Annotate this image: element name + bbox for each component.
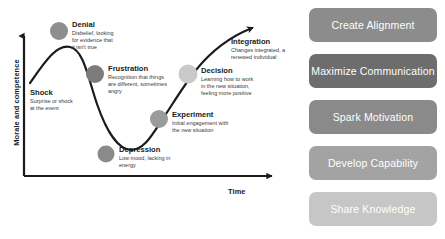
action-spark-motivation[interactable]: Spark Motivation (309, 100, 437, 134)
stage-label-shock: Shock Surprise or shock at the event (30, 88, 74, 112)
stage-title-denial: Denial (72, 20, 114, 29)
marker-experiment (150, 110, 168, 128)
x-axis-title: Time (228, 187, 246, 196)
stage-title-integration: Integration (231, 37, 297, 46)
actions-panel: Create Alignment Maximize Communication … (300, 0, 445, 239)
action-create-alignment[interactable]: Create Alignment (309, 8, 437, 42)
marker-denial (50, 22, 68, 40)
stage-title-experiment: Experiment (172, 110, 230, 119)
curve-graphic (0, 0, 300, 239)
change-curve-infographic: Morale and competence Time Shock Surpris… (0, 0, 445, 239)
action-maximize-communication[interactable]: Maximize Communication (309, 54, 437, 88)
stage-desc-experiment: Initial engagement with the new situatio… (172, 120, 230, 134)
stage-desc-denial: Disbelief, looking for evidence that it … (72, 30, 114, 52)
stage-label-experiment: Experiment Initial engagement with the n… (172, 110, 230, 134)
action-share-knowledge[interactable]: Share Knowledge (309, 192, 437, 226)
y-axis-title: Morale and competence (12, 53, 21, 153)
stage-title-frustration: Frustration (108, 64, 168, 73)
stage-desc-frustration: Recognition that things are different, s… (108, 74, 168, 96)
stage-desc-shock: Surprise or shock at the event (30, 98, 74, 112)
action-create-alignment-label: Create Alignment (332, 19, 415, 31)
stage-label-decision: Decision Learning how to work in the new… (201, 66, 259, 98)
stage-label-integration: Integration Changes integrated, a renewe… (231, 37, 297, 61)
action-maximize-communication-label: Maximize Communication (311, 65, 435, 77)
stage-desc-integration: Changes integrated, a renewed individual (231, 47, 297, 61)
stage-label-depression: Depression Low mood, lacking in energy (119, 145, 185, 169)
marker-frustration (86, 65, 104, 83)
action-develop-capability-label: Develop Capability (328, 157, 418, 169)
stage-title-depression: Depression (119, 145, 185, 154)
change-curve-chart: Morale and competence Time Shock Surpris… (0, 0, 300, 239)
marker-decision (179, 65, 198, 84)
stage-label-denial: Denial Disbelief, looking for evidence t… (72, 20, 114, 52)
stage-desc-decision: Learning how to work in the new situatio… (201, 76, 259, 98)
stage-desc-depression: Low mood, lacking in energy (119, 155, 185, 169)
stage-title-shock: Shock (30, 88, 74, 97)
stage-label-frustration: Frustration Recognition that things are … (108, 64, 168, 96)
action-develop-capability[interactable]: Develop Capability (309, 146, 437, 180)
action-share-knowledge-label: Share Knowledge (330, 203, 415, 215)
stage-title-decision: Decision (201, 66, 259, 75)
marker-depression (98, 146, 115, 163)
action-spark-motivation-label: Spark Motivation (333, 111, 414, 123)
